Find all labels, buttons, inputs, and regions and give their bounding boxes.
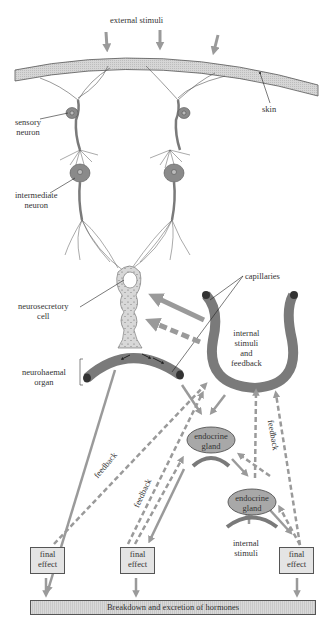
sensory-neurons	[66, 100, 190, 150]
label-endocrine-gland-1: endocrine gland	[193, 431, 229, 451]
neurosecretory-cell	[117, 266, 142, 348]
label-neurohaemal-organ: neurohaemal organ	[22, 367, 66, 387]
final-effect-box-3: final effect	[279, 547, 314, 574]
label-endocrine-gland-2: endocrine gland	[234, 493, 270, 513]
external-stimuli-arrows	[106, 30, 218, 51]
intermediate-neurons	[70, 164, 184, 220]
label-internal-stimuli-feedback: internal stimuli and feedback	[231, 328, 262, 368]
label-intermediate-neuron: intermediate neuron	[15, 190, 57, 210]
skin-layer	[15, 58, 318, 96]
label-external-stimuli: external stimuli	[110, 15, 163, 25]
neurohaemal-organ	[87, 358, 180, 378]
label-neurosecretory-cell: neurosecretory cell	[18, 301, 69, 321]
breakdown-excretion-bar: Breakdown and excretion of hormones	[30, 600, 316, 615]
label-skin: skin	[262, 104, 276, 114]
final-effect-box-1: final effect	[30, 547, 65, 574]
label-sensory-neuron: sensory neuron	[15, 117, 41, 137]
label-internal-stimuli: internal stimuli	[233, 538, 259, 558]
final-effect-box-2: final effect	[120, 547, 155, 574]
label-capillaries: capillaries	[245, 271, 280, 281]
axon-terminals	[65, 220, 190, 272]
excretion-arrows	[46, 578, 297, 594]
